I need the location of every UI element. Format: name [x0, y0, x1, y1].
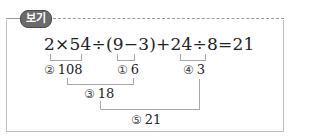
- step-2-label: ②108: [44, 62, 83, 77]
- step-marker: ①: [117, 63, 128, 77]
- step-value: 6: [131, 62, 139, 77]
- step-value: 3: [197, 62, 205, 77]
- bracket-step-5-left: [100, 101, 101, 109]
- step-5-label: ⑤21: [131, 112, 161, 127]
- box-top-dashed-border: [48, 18, 284, 19]
- bracket-step-2: [50, 54, 82, 61]
- step-marker: ②: [44, 63, 55, 77]
- step-value: 108: [58, 62, 83, 77]
- step-1-label: ①6: [117, 62, 139, 77]
- step-marker: ⑤: [131, 113, 142, 127]
- bracket-step-5: [100, 79, 200, 110]
- bracket-step-4: [180, 54, 206, 61]
- step-marker: ③: [84, 87, 95, 101]
- math-expression: 2×54÷(9−3)+24÷8=21: [44, 34, 255, 54]
- example-badge: 보기: [20, 10, 52, 28]
- step-value: 21: [145, 112, 162, 127]
- bracket-step-1: [117, 54, 135, 61]
- step-4-label: ④3: [183, 62, 205, 77]
- step-marker: ④: [183, 63, 194, 77]
